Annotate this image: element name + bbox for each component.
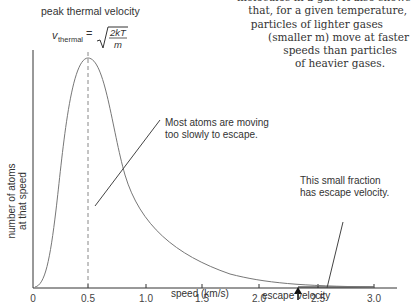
x-axis-label: speed (km/s)	[171, 288, 229, 299]
most-atoms-line1: Most atoms are moving	[165, 117, 269, 128]
formula-den: m	[114, 39, 122, 50]
formula-num: 2kT	[110, 27, 126, 38]
most-atoms-line2: too slowly to escape.	[165, 129, 258, 140]
formula-sub: thermal	[58, 35, 83, 44]
formula-eq: =	[86, 27, 92, 39]
small-fraction-pointer	[327, 222, 343, 288]
y-axis-label: number of atoms at that speed	[6, 156, 28, 246]
x-tick-label: 3.0	[367, 293, 381, 303]
peak-title: peak thermal velocity	[41, 5, 140, 17]
escape-velocity-label: escape velocity	[262, 290, 330, 301]
chart-canvas	[0, 0, 417, 303]
formula-v: v	[52, 29, 58, 41]
most-atoms-pointer	[95, 120, 160, 206]
x-tick-label: 0	[30, 293, 36, 303]
small-fraction-line2: has escape velocity.	[300, 187, 389, 198]
x-tick-label: 1.0	[139, 293, 153, 303]
x-tick-label: 0.5	[81, 293, 95, 303]
distribution-curve	[35, 58, 374, 287]
small-fraction-line1: This small fraction	[300, 175, 381, 186]
